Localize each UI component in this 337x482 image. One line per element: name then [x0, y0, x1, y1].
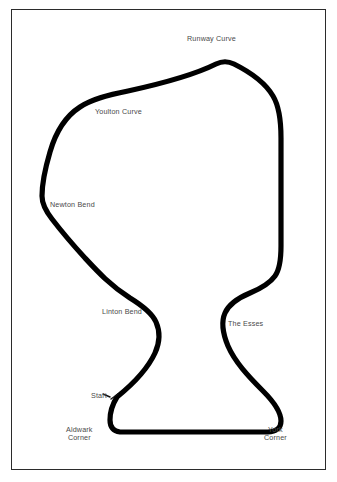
circuit-track-drawing — [0, 0, 337, 482]
circuit-track-path — [42, 62, 281, 432]
label-linton-bend: Linton Bend — [102, 308, 142, 316]
label-the-esses: The Esses — [228, 320, 263, 328]
label-newton-bend: Newton Bend — [50, 201, 95, 209]
label-york-corner: York Corner — [264, 426, 287, 443]
label-runway-curve: Runway Curve — [187, 35, 236, 43]
circuit-map-page: Runway Curve Youlton Curve Newton Bend L… — [0, 0, 337, 482]
label-aldwark-corner: Aldwark Corner — [66, 426, 93, 443]
label-youlton-curve: Youlton Curve — [95, 108, 142, 116]
label-start: Start — [91, 392, 107, 400]
